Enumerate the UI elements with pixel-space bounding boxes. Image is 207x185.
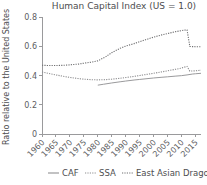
y-axis: 00.20.40.60.8	[24, 13, 42, 139]
series-layer	[42, 30, 201, 85]
y-axis-label: Ratio relative to the United States	[2, 9, 11, 145]
y-tick-label: 0.4	[24, 72, 37, 81]
series-line-caf	[98, 73, 201, 85]
legend-label-caf: CAF	[62, 168, 79, 178]
chart-container: Human Capital Index (US = 1.0) Ratio rel…	[0, 0, 207, 185]
line-chart: Human Capital Index (US = 1.0) Ratio rel…	[0, 0, 207, 185]
y-tick-label: 0.6	[24, 42, 37, 51]
y-tick-label: 0.2	[24, 101, 37, 110]
y-tick-label: 0.8	[24, 13, 37, 22]
chart-legend: CAFSSAEast Asian Dragons	[48, 168, 207, 178]
legend-label-ssa: SSA	[99, 168, 116, 178]
series-line-east-asian-dragons	[42, 30, 201, 66]
legend-label-east-asian-dragons: East Asian Dragons	[136, 168, 207, 178]
x-axis: 1960196519701975198019851990199520002005…	[26, 134, 201, 159]
series-line-ssa	[42, 66, 201, 79]
chart-title: Human Capital Index (US = 1.0)	[52, 1, 196, 11]
y-tick-label: 0	[32, 130, 37, 139]
